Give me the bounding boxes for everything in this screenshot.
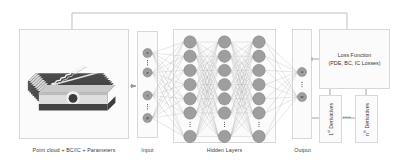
nth-derivatives-box: nth Derivatives: [355, 95, 378, 143]
output-layer-panel: [292, 29, 312, 139]
point-cloud-illustration: [20, 30, 128, 138]
input-layer-panel: [137, 31, 158, 138]
first-derivatives-box: 1st Derivatives: [319, 95, 342, 143]
first-derivatives-label: 1st Derivatives: [327, 103, 334, 136]
loss-function-title: Loss Function: [338, 51, 372, 59]
hidden-layers-panel: [173, 29, 276, 143]
front-slice-face: [39, 85, 116, 111]
pinn-architecture-figure: Point cloud + BC/IC + Parameters Input H…: [0, 0, 393, 166]
loss-function-terms: (PDE, BC, IC Losses): [328, 59, 380, 67]
derivatives-ellipsis: ••••: [343, 115, 351, 120]
slice-stack: [28, 65, 116, 110]
caption-point-cloud: Point cloud + BC/IC + Parameters: [19, 147, 129, 153]
nth-derivatives-order: n: [364, 133, 370, 136]
output-to-loss-connector: [312, 57, 319, 61]
caption-output: Output: [287, 147, 318, 153]
nth-derivatives-text: Derivatives: [364, 102, 370, 128]
nth-derivatives-label: nth Derivatives: [363, 102, 370, 135]
point-cloud-panel: [19, 29, 129, 139]
first-derivatives-text: Derivatives: [328, 103, 334, 129]
caption-input: Input: [132, 147, 163, 153]
first-derivatives-suffix: st: [327, 130, 331, 133]
loss-function-box: Loss Function (PDE, BC, IC Losses): [319, 29, 390, 89]
feedback-loop-path: [72, 13, 347, 29]
caption-hidden-layers: Hidden Layers: [173, 147, 276, 153]
nth-derivatives-suffix: th: [363, 130, 367, 133]
first-derivatives-order: 1: [328, 133, 334, 136]
